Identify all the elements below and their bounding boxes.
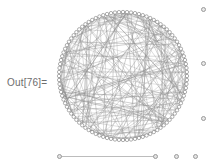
- graph-edge-layer: [59, 12, 187, 140]
- slider-track[interactable]: [60, 156, 155, 157]
- cell-bracket-dot-bottom[interactable]: [201, 116, 206, 121]
- slider-handle-left[interactable]: [57, 154, 62, 159]
- output-cell-label: Out[76]=: [7, 76, 47, 89]
- cell-bracket-dot-middle[interactable]: [201, 61, 206, 66]
- graph-svg: [55, 2, 191, 152]
- slider-extra-dot-2[interactable]: [193, 154, 198, 159]
- slider-handle-right[interactable]: [153, 154, 158, 159]
- circular-graph-plot[interactable]: [55, 2, 191, 152]
- notebook-output-cell: Out[76]=: [0, 0, 215, 164]
- slider-row: [0, 150, 215, 164]
- cell-bracket-dot-top[interactable]: [201, 7, 206, 12]
- slider-extra-dot-1[interactable]: [174, 154, 179, 159]
